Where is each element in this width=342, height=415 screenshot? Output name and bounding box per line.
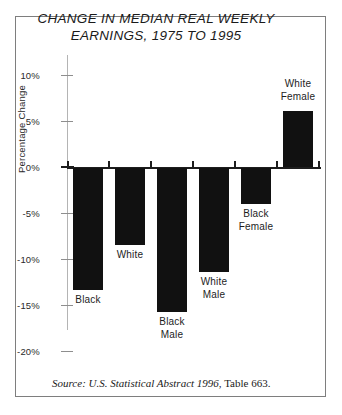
bar-label-white-male-line-1: White <box>184 276 244 289</box>
plot-area: Percentage Change 10% 5% 0% -5% -10% -15… <box>52 55 321 330</box>
bar-label-white-male-line-2: Male <box>184 289 244 302</box>
x-tick-0 <box>67 161 69 168</box>
y-tick-label-neg15: -15% <box>0 300 40 311</box>
bar-label-black-male-line-2: Male <box>142 329 202 342</box>
y-axis-title: Percentage Change <box>16 85 27 173</box>
bar-label-black-line-1: Black <box>75 294 100 305</box>
bar-black[interactable] <box>73 168 103 290</box>
bar-label-white-male: White Male <box>184 276 244 301</box>
y-tick-neg20 <box>61 351 73 352</box>
bar-white[interactable] <box>115 168 145 245</box>
bar-label-black: Black <box>58 294 118 307</box>
y-tick-label-5: 5% <box>0 116 40 127</box>
y-tick-label-10: 10% <box>0 70 40 81</box>
x-tick-5 <box>276 161 278 168</box>
x-axis-zero-line <box>67 167 321 169</box>
y-tick-label-neg20: -20% <box>0 346 40 357</box>
y-tick-label-neg10: -10% <box>0 254 40 265</box>
source-caption: Source: U.S. Statistical Abstract 1996, … <box>52 377 270 389</box>
y-tick-neg5 <box>61 213 73 214</box>
bar-label-white-female-line-2: Female <box>268 91 328 104</box>
chart-title-line-1: CHANGE IN MEDIAN REAL WEEKLY <box>22 10 290 27</box>
source-caption-table: , Table 663. <box>219 377 271 389</box>
bar-label-white-female-line-1: White <box>268 78 328 91</box>
y-tick-10 <box>61 75 73 76</box>
bar-label-black-male-line-1: Black <box>142 316 202 329</box>
x-tick-1 <box>108 161 110 168</box>
x-tick-2 <box>150 161 152 168</box>
bar-label-black-female: Black Female <box>226 208 286 233</box>
bar-label-white-female: White Female <box>268 78 328 103</box>
bar-white-female[interactable] <box>283 111 313 167</box>
bar-white-male[interactable] <box>199 168 229 272</box>
y-tick-label-0: 0% <box>0 162 40 173</box>
bar-label-white: White <box>100 249 160 262</box>
bar-black-male[interactable] <box>157 168 187 312</box>
y-tick-neg10 <box>61 259 73 260</box>
chart-title: CHANGE IN MEDIAN REAL WEEKLY EARNINGS, 1… <box>22 10 290 44</box>
y-tick-5 <box>61 121 73 122</box>
bar-label-black-female-line-2: Female <box>226 221 286 234</box>
bar-label-black-male: Black Male <box>142 316 202 341</box>
chart-figure: CHANGE IN MEDIAN REAL WEEKLY EARNINGS, 1… <box>0 0 342 415</box>
x-tick-3 <box>192 161 194 168</box>
x-tick-4 <box>234 161 236 168</box>
bar-label-black-female-line-1: Black <box>226 208 286 221</box>
y-tick-label-neg5: -5% <box>0 208 40 219</box>
bar-black-female[interactable] <box>241 168 271 204</box>
bar-label-white-line-1: White <box>117 249 144 260</box>
chart-title-line-2: EARNINGS, 1975 TO 1995 <box>22 27 290 44</box>
y-axis-line <box>67 55 68 330</box>
x-tick-6 <box>318 161 320 168</box>
source-caption-emphasis: Source: U.S. Statistical Abstract 1996 <box>52 377 219 389</box>
